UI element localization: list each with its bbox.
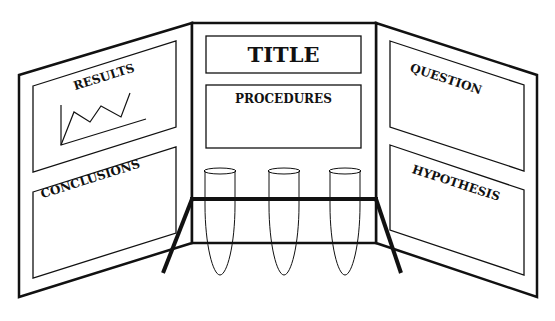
- science-fair-board: RESULTS CONCLUSIONS QUESTION HYPOTHESIS …: [0, 0, 555, 321]
- right-panel: QUESTION HYPOTHESIS: [376, 23, 537, 297]
- title-label: TITLE: [248, 42, 320, 67]
- center-panel: TITLE PROCEDURES: [192, 23, 376, 243]
- left-panel: RESULTS CONCLUSIONS: [19, 23, 192, 297]
- procedures-label: PROCEDURES: [235, 92, 332, 106]
